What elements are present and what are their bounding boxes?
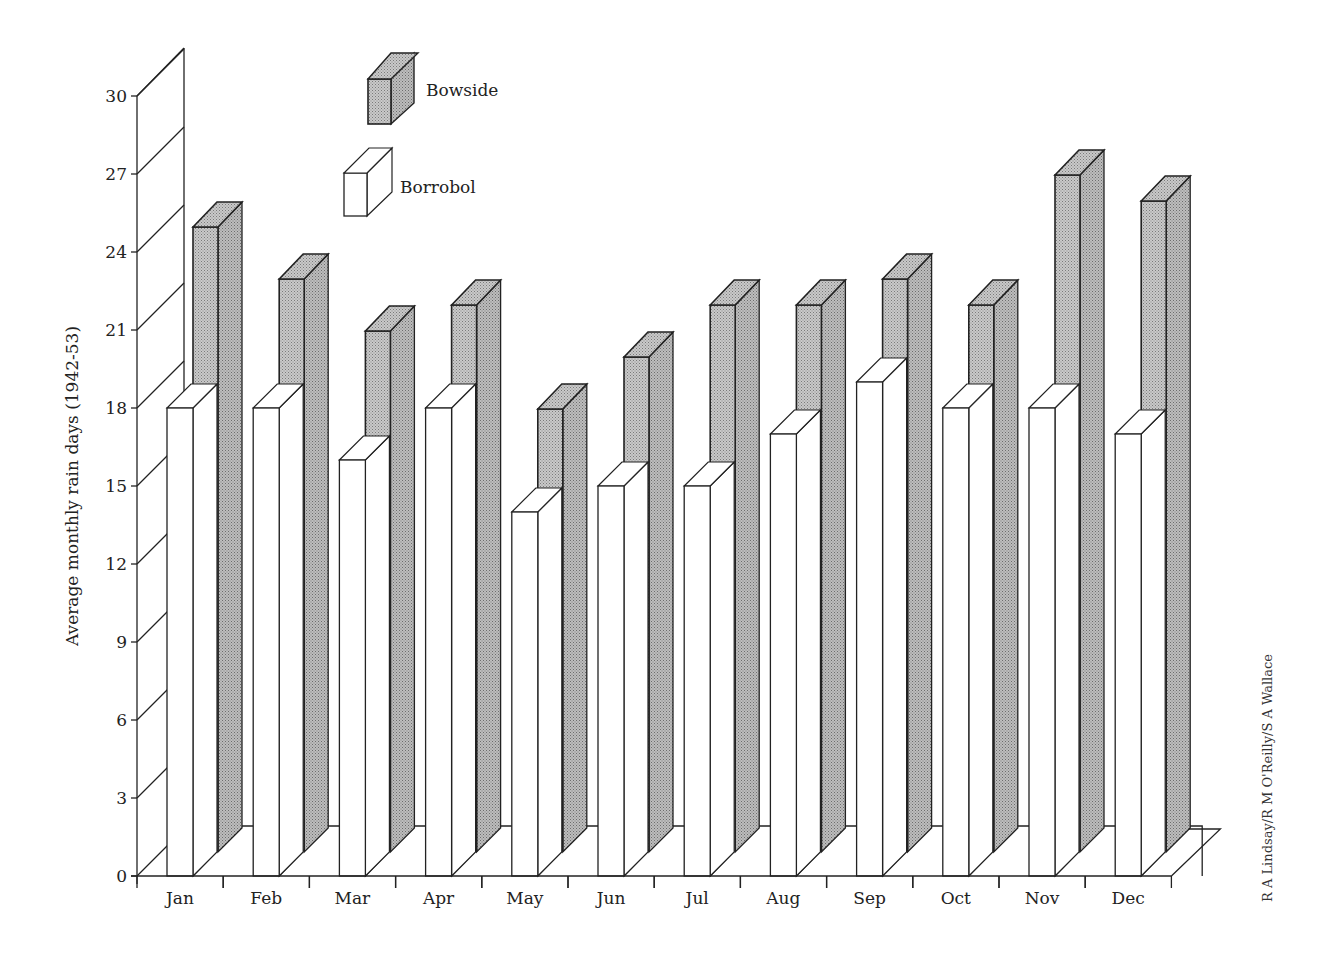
bar-group-feb (253, 254, 340, 876)
x-category-label: Dec (1112, 888, 1145, 908)
legend-item-bowside: Bowside (368, 53, 498, 124)
y-axis-title: Average monthly rain days (1942-53) (62, 326, 82, 647)
borrobol-bar-feb (253, 408, 279, 876)
borrobol-bar-side (193, 384, 217, 876)
bar-groups (167, 150, 1202, 876)
bar-group-may (512, 384, 599, 876)
legend-item-borrobol: Borrobol (344, 148, 476, 216)
borrobol-bar-jul (684, 486, 710, 876)
borrobol-bar-side (796, 410, 820, 876)
bar-group-apr (426, 280, 513, 876)
borrobol-bar-jun (598, 486, 624, 876)
bar-group-sep (857, 254, 944, 876)
floor-step (758, 826, 771, 876)
borrobol-bar-oct (943, 408, 969, 876)
borrobol-bar-side (1055, 384, 1079, 876)
y-tick-label: 0 (116, 866, 127, 886)
y-tick-label: 12 (105, 554, 127, 574)
floor-step (1189, 826, 1202, 876)
bar-group-jun (598, 332, 685, 876)
borrobol-bar-side (452, 384, 476, 876)
bowside-bar-side (908, 254, 932, 852)
y-tick-label: 24 (105, 242, 127, 262)
bowside-bar-side (218, 202, 242, 852)
borrobol-swatch (344, 173, 367, 216)
bowside-bar-side (994, 280, 1018, 852)
borrobol-bar-sep (857, 382, 883, 876)
x-category-label: Sep (853, 888, 886, 908)
borrobol-bar-mar (339, 460, 365, 876)
bowside-bar-side (390, 306, 414, 852)
x-category-label: Feb (250, 888, 282, 908)
floor-step (931, 826, 944, 876)
bar-group-oct (943, 280, 1030, 876)
gridline (137, 205, 184, 252)
borrobol-bar-side (538, 488, 562, 876)
y-tick-label: 18 (105, 398, 127, 418)
x-category-label: Nov (1025, 888, 1060, 908)
borrobol-bar-side (365, 436, 389, 876)
y-tick-label: 3 (116, 788, 127, 808)
x-category-label: Jun (595, 888, 626, 908)
floor-step (1103, 826, 1116, 876)
borrobol-bar-side (624, 462, 648, 876)
floor-step (500, 826, 513, 876)
bowside-bar-side (1166, 176, 1190, 852)
y-tick-label: 6 (116, 710, 127, 730)
borrobol-bar-side (710, 462, 734, 876)
x-category-label: Aug (765, 888, 800, 908)
bowside-swatch (368, 79, 391, 124)
borrobol-bar-side (279, 384, 303, 876)
borrobol-bar-may (512, 512, 538, 876)
legend-label-bowside: Bowside (426, 80, 498, 100)
borrobol-bar-side (883, 358, 907, 876)
x-category-label: Apr (422, 888, 455, 908)
floor-step (1017, 826, 1030, 876)
y-tick-label: 9 (116, 632, 127, 652)
floor-step (241, 826, 254, 876)
bar-group-jul (684, 280, 771, 876)
floor-step (413, 826, 426, 876)
bowside-bar-side (477, 280, 501, 852)
gridline (137, 49, 184, 96)
borrobol-bar-side (1141, 410, 1165, 876)
floor-step (672, 826, 685, 876)
y-tick-label: 15 (105, 476, 127, 496)
gridline (137, 127, 184, 174)
x-category-label: Mar (335, 888, 372, 908)
bowside-bar-side (304, 254, 328, 852)
bowside-bar-side (1080, 150, 1104, 852)
y-tick-label: 30 (105, 86, 127, 106)
bar-group-aug (770, 280, 857, 876)
bar-group-jan (167, 202, 254, 876)
y-tick-label: 21 (105, 320, 127, 340)
y-tick-label: 27 (105, 164, 127, 184)
floor-step (844, 826, 857, 876)
borrobol-bar-dec (1115, 434, 1141, 876)
credit-text: R A Lindsay/R M O'Reilly/S A Wallace (1260, 654, 1275, 902)
floor-step (327, 826, 340, 876)
borrobol-bar-side (969, 384, 993, 876)
x-category-label: May (506, 888, 544, 908)
x-category-label: Oct (941, 888, 971, 908)
legend-label-borrobol: Borrobol (400, 177, 476, 197)
floor-step (586, 826, 599, 876)
legend: BowsideBorrobol (344, 53, 498, 216)
bowside-bar-side (563, 384, 587, 852)
rain-days-chart: 036912151821242730JanFebMarAprMayJunJulA… (0, 0, 1330, 965)
bar-group-dec (1115, 176, 1202, 876)
bowside-bar-side (821, 280, 845, 852)
bar-group-nov (1029, 150, 1116, 876)
bar-group-mar (339, 306, 426, 876)
borrobol-bar-nov (1029, 408, 1055, 876)
gridline (137, 283, 184, 330)
borrobol-bar-aug (770, 434, 796, 876)
x-category-label: Jul (684, 888, 709, 908)
x-category-label: Jan (164, 888, 194, 908)
borrobol-bar-apr (426, 408, 452, 876)
bowside-bar-side (649, 332, 673, 852)
borrobol-bar-jan (167, 408, 193, 876)
bowside-bar-side (735, 280, 759, 852)
